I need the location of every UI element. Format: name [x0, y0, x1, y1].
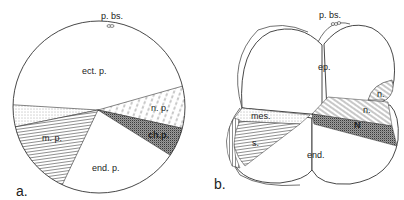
polar-bodies-icon — [107, 25, 114, 28]
label-n-small: n. — [377, 89, 385, 99]
label-mp: m. p. — [42, 133, 62, 143]
panel-b: p. bs. ep. n. n. N mes. s. end. b. — [214, 10, 398, 192]
panel-label-a: a. — [16, 183, 28, 199]
panel-label-b: b. — [214, 176, 226, 192]
label-pbs-b: p. bs. — [319, 10, 341, 20]
label-end: end. — [307, 150, 325, 160]
label-chp: ch.p. — [148, 130, 169, 140]
fate-map-figure: p. bs. ect. p. n. p. ch.p. m. p. end. p.… — [0, 0, 404, 200]
label-ep: ep. — [318, 62, 331, 72]
label-np: n. p. — [151, 103, 169, 113]
label-endp: end. p. — [92, 163, 120, 173]
polar-bodies-icon — [331, 22, 341, 26]
label-N: N — [354, 120, 361, 130]
panel-a: p. bs. ect. p. n. p. ch.p. m. p. end. p.… — [0, 11, 190, 200]
label-n: n. — [363, 105, 371, 115]
label-ect: ect. p. — [82, 66, 107, 76]
blastomere-upper-left — [242, 29, 322, 115]
label-mes: mes. — [251, 111, 271, 121]
label-pbs-a: p. bs. — [101, 11, 123, 21]
label-s: s. — [252, 138, 259, 148]
